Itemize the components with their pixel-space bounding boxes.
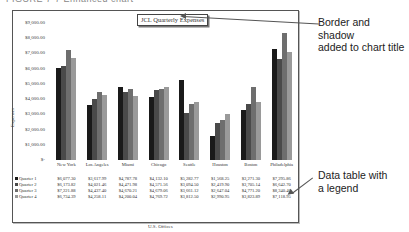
category-label: Philadelphia	[267, 162, 297, 168]
bar[interactable]	[256, 102, 261, 160]
y-tick-label: $6,000.00	[13, 66, 45, 72]
category-label: New York	[51, 162, 81, 168]
y-tick-label: $3,000.00	[13, 111, 45, 117]
plot-area[interactable]	[51, 23, 297, 160]
table-cell: $4,200.04	[113, 194, 143, 200]
bar-group	[174, 23, 205, 160]
legend-key-icon	[15, 177, 18, 180]
bar-group	[143, 23, 174, 160]
bar-group	[266, 23, 297, 160]
category-row: New YorkLos AngelesMiamiChicagoSeattleHo…	[51, 161, 297, 175]
table-cell: $2,990.95	[205, 194, 235, 200]
legend-key-icon	[15, 189, 18, 192]
bar-group	[51, 23, 82, 160]
legend-label: Quarter 1	[19, 176, 36, 181]
bar-group	[113, 23, 144, 160]
category-label: Boston	[236, 162, 266, 168]
figure-caption: FIGURE 7-7 Enhanced chart	[6, 0, 134, 4]
category-label: Chicago	[144, 162, 174, 168]
category-label: Los Angeles	[82, 162, 112, 168]
bar[interactable]	[194, 102, 199, 160]
legend-key-icon	[15, 183, 18, 186]
table-cell: $3,823.89	[236, 194, 266, 200]
callout-table: Data table with a legend	[318, 169, 387, 194]
table-cell: $6,734.39	[51, 194, 81, 200]
y-axis-title: Expenses	[10, 108, 15, 127]
y-tick-label: $7,000.00	[13, 50, 45, 56]
x-axis-title: U.S. Offices	[148, 224, 173, 229]
category-label: Seattle	[174, 162, 204, 168]
y-tick-label: $-	[13, 157, 45, 163]
table-cell: $4,258.11	[82, 194, 112, 200]
y-tick-label: $2,000.00	[13, 127, 45, 133]
callout-title: Border and shadow added to chart title	[318, 16, 409, 54]
y-tick-label: $8,000.00	[13, 35, 45, 41]
bar-group	[205, 23, 236, 160]
legend-entry: Quarter 4	[15, 194, 49, 200]
bar[interactable]	[102, 95, 107, 160]
y-tick-label: $5,000.00	[13, 81, 45, 87]
bar[interactable]	[287, 52, 292, 160]
category-label: Miami	[113, 162, 143, 168]
legend-label: Quarter 2	[19, 182, 36, 187]
table-cell: $3,812.50	[174, 194, 204, 200]
bar[interactable]	[225, 114, 230, 160]
y-tick-label: $9,000.00	[13, 20, 45, 26]
y-tick-label: $4,000.00	[13, 96, 45, 102]
legend-label: Quarter 4	[19, 194, 36, 199]
bar-group	[82, 23, 113, 160]
table-cell: $4,769.72	[144, 194, 174, 200]
bar[interactable]	[133, 96, 138, 160]
table-row: Quarter 4$6,734.39$4,258.11$4,200.04$4,7…	[13, 194, 297, 200]
legend-label: Quarter 3	[19, 188, 36, 193]
legend-key-icon	[15, 195, 18, 198]
bar-group	[236, 23, 267, 160]
arrowhead-icon	[180, 13, 186, 19]
bar[interactable]	[71, 58, 76, 161]
chart-frame[interactable]: JCL Quarterly Expenses $-$1,000.00$2,000…	[12, 10, 299, 223]
bar[interactable]	[164, 87, 169, 160]
y-tick-label: $1,000.00	[13, 142, 45, 148]
category-label: Houston	[205, 162, 235, 168]
